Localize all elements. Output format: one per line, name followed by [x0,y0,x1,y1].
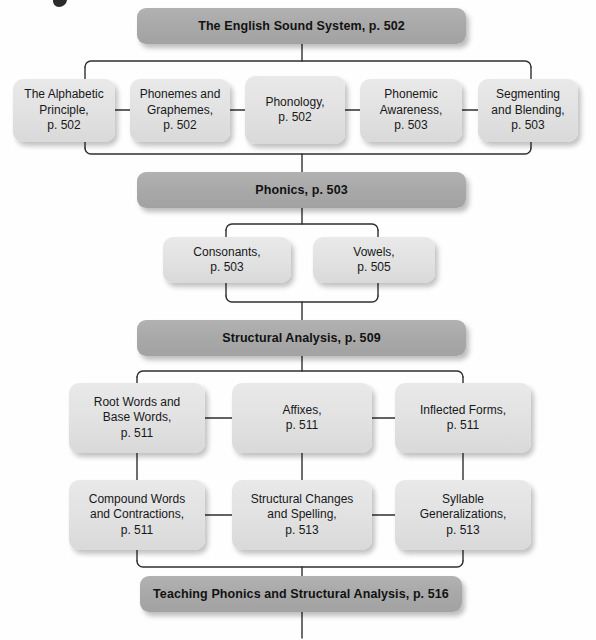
node-line-3: p. 502 [134,118,226,133]
section-bar-label: Teaching Phonics and Structural Analysis… [140,587,462,602]
node-text: Root Words and Base Words, p. 511 [73,395,201,441]
node-line-1: Segmenting [482,87,574,102]
node-line-3: p. 513 [399,523,527,538]
node-phonemes-and-graphemes[interactable]: Phonemes and Graphemes, p. 502 [130,79,230,142]
node-line-2: and Contractions, [73,507,201,522]
bracket-row3-top [137,371,463,377]
node-text: Phonemes and Graphemes, p. 502 [134,87,226,133]
flowchart-diagram: The English Sound System, p. 502 Phonics… [0,0,596,640]
node-segmenting-and-blending[interactable]: Segmenting and Blending, p. 503 [478,79,578,142]
node-line-2: and Blending, [482,103,574,118]
node-line-3: p. 511 [73,523,201,538]
node-text: Affixes, p. 511 [236,403,368,434]
node-line-3: p. 503 [482,118,574,133]
node-line-1: Phonemic [364,87,458,102]
node-alphabetic-principle[interactable]: The Alphabetic Principle, p. 502 [13,79,115,142]
node-line-1: Vowels, [317,245,431,260]
node-line-2: p. 505 [317,260,431,275]
node-line-3: p. 513 [236,523,368,538]
section-bar-phonics[interactable]: Phonics, p. 503 [137,172,466,208]
node-line-2: p. 511 [399,418,527,433]
node-line-2: Generalizations, [399,507,527,522]
bracket-row2-top [226,224,378,230]
node-line-2: p. 511 [236,418,368,433]
node-syllable-generalizations[interactable]: Syllable Generalizations, p. 513 [395,480,531,550]
section-bar-teaching-phonics[interactable]: Teaching Phonics and Structural Analysis… [140,576,462,612]
node-phonology[interactable]: Phonology, p. 502 [245,76,345,144]
section-bar-structural-analysis[interactable]: Structural Analysis, p. 509 [137,320,466,356]
node-compound-words-and-contractions[interactable]: Compound Words and Contractions, p. 511 [69,480,205,550]
node-line-1: Inflected Forms, [399,403,527,418]
node-line-1: Affixes, [236,403,368,418]
node-phonemic-awareness[interactable]: Phonemic Awareness, p. 503 [360,79,462,142]
node-line-2: and Spelling, [236,507,368,522]
node-text: Phonology, p. 502 [249,95,341,126]
node-structural-changes-and-spelling[interactable]: Structural Changes and Spelling, p. 513 [232,480,372,550]
node-affixes[interactable]: Affixes, p. 511 [232,383,372,453]
node-vowels[interactable]: Vowels, p. 505 [313,237,435,283]
scan-artifact-mark [52,0,68,7]
node-text: The Alphabetic Principle, p. 502 [17,87,111,133]
node-line-1: Phonemes and [134,87,226,102]
node-text: Structural Changes and Spelling, p. 513 [236,492,368,538]
node-text: Syllable Generalizations, p. 513 [399,492,527,538]
node-text: Compound Words and Contractions, p. 511 [73,492,201,538]
section-bar-english-sound-system[interactable]: The English Sound System, p. 502 [137,8,466,44]
node-line-2: Base Words, [73,410,201,425]
node-line-1: Root Words and [73,395,201,410]
section-bar-label: The English Sound System, p. 502 [137,19,466,34]
section-bar-label: Phonics, p. 503 [137,183,466,198]
node-text: Vowels, p. 505 [317,245,431,276]
node-line-1: Syllable [399,492,527,507]
node-text: Phonemic Awareness, p. 503 [364,87,458,133]
bracket-row4-bottom [137,561,463,567]
node-consonants[interactable]: Consonants, p. 503 [163,237,291,283]
node-text: Inflected Forms, p. 511 [399,403,527,434]
node-line-1: The Alphabetic [17,87,111,102]
bracket-row1-top [85,61,531,67]
node-text: Consonants, p. 503 [167,245,287,276]
node-line-2: Principle, [17,103,111,118]
node-line-2: Graphemes, [134,103,226,118]
node-line-3: p. 503 [364,118,458,133]
node-line-1: Structural Changes [236,492,368,507]
node-inflected-forms[interactable]: Inflected Forms, p. 511 [395,383,531,453]
bracket-row1-bottom [85,148,531,154]
bracket-row2-bottom [226,296,378,302]
node-line-3: p. 511 [73,426,201,441]
node-line-1: Consonants, [167,245,287,260]
node-text: Segmenting and Blending, p. 503 [482,87,574,133]
section-bar-label: Structural Analysis, p. 509 [137,331,466,346]
node-line-3: p. 502 [17,118,111,133]
node-line-1: Phonology, [249,95,341,110]
node-line-1: Compound Words [73,492,201,507]
node-line-2: Awareness, [364,103,458,118]
node-line-2: p. 502 [249,110,341,125]
node-line-2: p. 503 [167,260,287,275]
node-root-words-and-base-words[interactable]: Root Words and Base Words, p. 511 [69,383,205,453]
